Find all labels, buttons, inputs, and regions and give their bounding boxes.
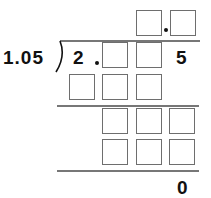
row2-box-2[interactable] (136, 108, 162, 134)
dividend-digit-5: 5 (176, 48, 188, 67)
row3-box-1[interactable] (102, 139, 128, 165)
row1-box-2[interactable] (102, 74, 128, 100)
row1-box-1[interactable] (69, 74, 95, 100)
row3-box-2[interactable] (136, 139, 162, 165)
subtraction-line-2 (57, 170, 199, 172)
row2-box-3[interactable] (169, 108, 195, 134)
quotient-digit-box-2[interactable] (170, 10, 196, 36)
dividend-decimal-point (95, 61, 99, 65)
divisor: 1.05 (3, 48, 44, 67)
dividend-digit-box-2[interactable] (136, 42, 162, 68)
dividend-digit-box-1[interactable] (102, 42, 128, 68)
subtraction-line-1 (57, 105, 199, 107)
dividend-digit-2: 2 (73, 48, 85, 67)
vinculum-line (60, 40, 200, 42)
division-bracket (52, 40, 64, 74)
row3-box-3[interactable] (169, 139, 195, 165)
quotient-decimal-point (164, 28, 168, 32)
quotient-digit-box-1[interactable] (136, 10, 162, 36)
row2-box-1[interactable] (102, 108, 128, 134)
remainder: 0 (177, 178, 189, 197)
row1-box-3[interactable] (136, 74, 162, 100)
